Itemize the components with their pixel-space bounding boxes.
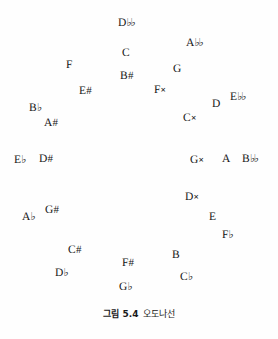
note-label-a-sharp: A# (44, 118, 58, 130)
note-accidental-double-flat: ♭♭ (195, 37, 203, 49)
note-label-f-double-sharp: F× (154, 85, 166, 97)
note-label-d-double-flat: D♭♭ (118, 18, 135, 30)
note-accidental-sharp: # (129, 257, 134, 269)
note-letter: A (222, 153, 231, 165)
note-letter: F (66, 59, 73, 71)
note-label-b-double-flat: B♭♭ (242, 154, 258, 166)
note-accidental-double-sharp: × (161, 86, 166, 96)
note-label-g-sharp: G# (45, 205, 59, 217)
note-letter: G (119, 281, 128, 293)
note-accidental-sharp: # (76, 244, 81, 256)
note-letter: C (122, 47, 130, 59)
note-label-b-natural: B (172, 250, 180, 262)
note-accidental-sharp: # (128, 70, 133, 82)
note-label-d-natural: D (212, 99, 221, 111)
note-label-e-sharp: E# (79, 86, 91, 98)
note-letter: D (39, 153, 48, 165)
note-letter: G (45, 204, 54, 216)
note-letter: D (118, 17, 127, 29)
note-label-d-sharp: D# (39, 154, 53, 166)
note-label-f-sharp: F# (122, 258, 134, 270)
note-label-c-sharp: C# (68, 245, 81, 257)
note-letter: G (173, 63, 182, 75)
note-label-d-double-sharp: D× (185, 192, 199, 204)
note-letter: C (68, 244, 76, 256)
note-label-f-natural: F (66, 60, 73, 72)
note-label-b-flat: B♭ (29, 103, 42, 115)
note-accidental-double-sharp: × (194, 193, 199, 203)
note-accidental-double-flat: ♭♭ (250, 153, 258, 165)
note-letter: C (180, 271, 188, 283)
note-letter: D (212, 98, 221, 110)
note-accidental-sharp: # (53, 117, 58, 129)
note-label-b-sharp: B# (120, 71, 133, 83)
note-accidental-sharp: # (48, 153, 53, 165)
note-accidental-flat: ♭ (64, 267, 69, 279)
note-letter: F (222, 229, 229, 241)
note-letter: B (242, 153, 250, 165)
figure-caption-number: 그림 5.4 (103, 309, 138, 319)
note-label-c-flat: C♭ (180, 272, 193, 284)
note-letter: A (22, 211, 31, 223)
note-label-g-double-sharp: G× (190, 155, 204, 167)
note-label-f-flat: F♭ (222, 230, 234, 242)
figure-caption-text: 오도나선 (143, 309, 175, 319)
note-accidental-flat: ♭ (37, 102, 42, 114)
note-label-e-flat: E♭ (14, 155, 26, 167)
note-accidental-double-flat: ♭♭ (237, 91, 245, 103)
note-label-c-double-sharp: C× (183, 113, 196, 125)
note-accidental-flat: ♭ (128, 281, 133, 293)
figure-caption: 그림 5.4오도나선 (0, 307, 278, 320)
note-label-c-natural: C (122, 48, 130, 60)
note-label-d-flat: D♭ (55, 268, 68, 280)
note-letter: B (172, 249, 180, 261)
note-letter: F (154, 84, 161, 96)
note-letter: D (185, 191, 194, 203)
note-label-a-double-flat: A♭♭ (186, 38, 203, 50)
note-letter: A (44, 117, 53, 129)
note-accidental-sharp: # (54, 204, 59, 216)
note-letter: B (29, 102, 37, 114)
note-letter: D (55, 267, 64, 279)
note-accidental-double-sharp: × (199, 156, 204, 166)
note-letter: B (120, 70, 128, 82)
note-accidental-sharp: # (86, 85, 91, 97)
note-accidental-double-flat: ♭♭ (127, 17, 135, 29)
note-accidental-double-sharp: × (191, 114, 196, 124)
note-accidental-flat: ♭ (21, 154, 26, 166)
note-letter: G (190, 154, 199, 166)
note-label-a-natural: A (222, 154, 231, 166)
spiral-of-fifths-figure: D♭♭A♭♭CFGB#E#F×DE♭♭B♭C×A#E♭D#G×AB♭♭D×EA♭… (0, 0, 278, 339)
note-label-e-natural: E (209, 212, 216, 224)
note-letter: A (186, 37, 195, 49)
note-letter: E (209, 211, 216, 223)
note-label-g-flat: G♭ (119, 282, 132, 294)
note-accidental-flat: ♭ (229, 229, 234, 241)
note-label-e-double-flat: E♭♭ (230, 92, 245, 104)
note-accidental-flat: ♭ (188, 271, 193, 283)
note-accidental-flat: ♭ (31, 211, 36, 223)
note-letter: F (122, 257, 129, 269)
note-letter: C (183, 112, 191, 124)
note-label-a-flat: A♭ (22, 212, 35, 224)
note-label-g-natural: G (173, 64, 182, 76)
